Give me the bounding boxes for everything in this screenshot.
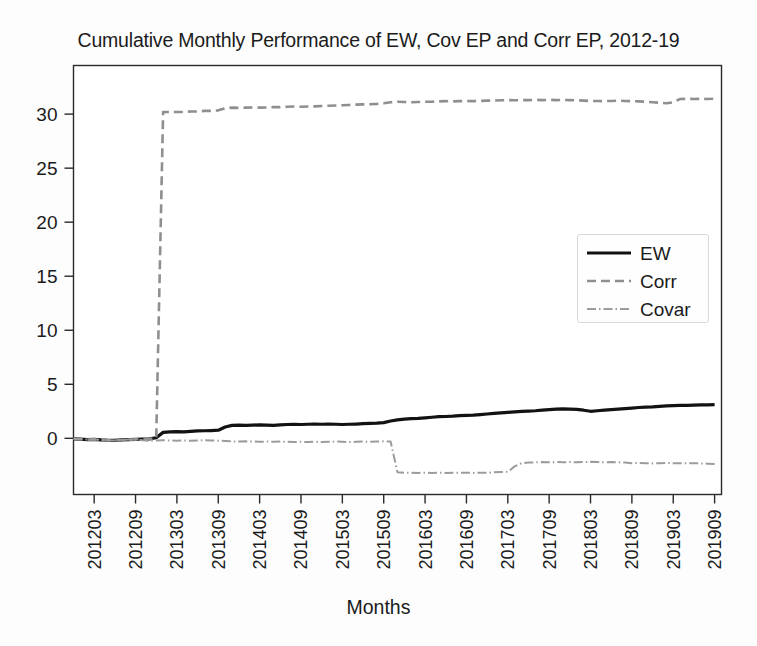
plot-area: 051015202530 201203201209201303201309201…: [0, 0, 757, 646]
y-tick-label: 20: [36, 212, 57, 233]
legend-item-covar[interactable]: Covar: [586, 295, 691, 323]
legend-swatch-covar: [586, 302, 632, 316]
x-tick-label: 201709: [540, 510, 560, 570]
legend-label-covar: Covar: [640, 300, 691, 319]
legend-swatch-ew: [586, 246, 632, 260]
x-tick-label: 201503: [333, 510, 353, 570]
x-tick-label: 201409: [291, 510, 311, 570]
x-tick-label: 201809: [622, 510, 642, 570]
legend-item-corr[interactable]: Corr: [586, 267, 677, 295]
legend-item-ew[interactable]: EW: [586, 239, 671, 267]
legend-swatch-corr: [586, 274, 632, 288]
y-tick-label: 30: [36, 104, 57, 125]
y-axis-ticks: 051015202530: [36, 104, 73, 449]
x-tick-label: 201303: [167, 510, 187, 570]
x-tick-label: 201703: [498, 510, 518, 570]
x-axis-ticks: 2012032012092013032013092014032014092015…: [85, 495, 725, 570]
legend[interactable]: EW Corr Covar: [577, 234, 709, 323]
x-tick-label: 201803: [581, 510, 601, 570]
x-tick-label: 201909: [705, 510, 725, 570]
y-tick-label: 25: [36, 158, 57, 179]
x-tick-label: 201403: [250, 510, 270, 570]
y-tick-label: 0: [47, 428, 58, 449]
y-tick-label: 5: [47, 374, 58, 395]
y-tick-label: 15: [36, 266, 57, 287]
legend-label-corr: Corr: [640, 272, 677, 291]
legend-label-ew: EW: [640, 244, 671, 263]
chart-figure: Cumulative Monthly Performance of EW, Co…: [0, 0, 757, 646]
x-tick-label: 201509: [374, 510, 394, 570]
x-tick-label: 201609: [457, 510, 477, 570]
x-tick-label: 201903: [664, 510, 684, 570]
x-tick-label: 201209: [126, 510, 146, 570]
x-tick-label: 201203: [85, 510, 105, 570]
y-tick-label: 10: [36, 320, 57, 341]
x-tick-label: 201309: [209, 510, 229, 570]
x-tick-label: 201603: [416, 510, 436, 570]
x-axis-label: Months: [0, 596, 757, 619]
